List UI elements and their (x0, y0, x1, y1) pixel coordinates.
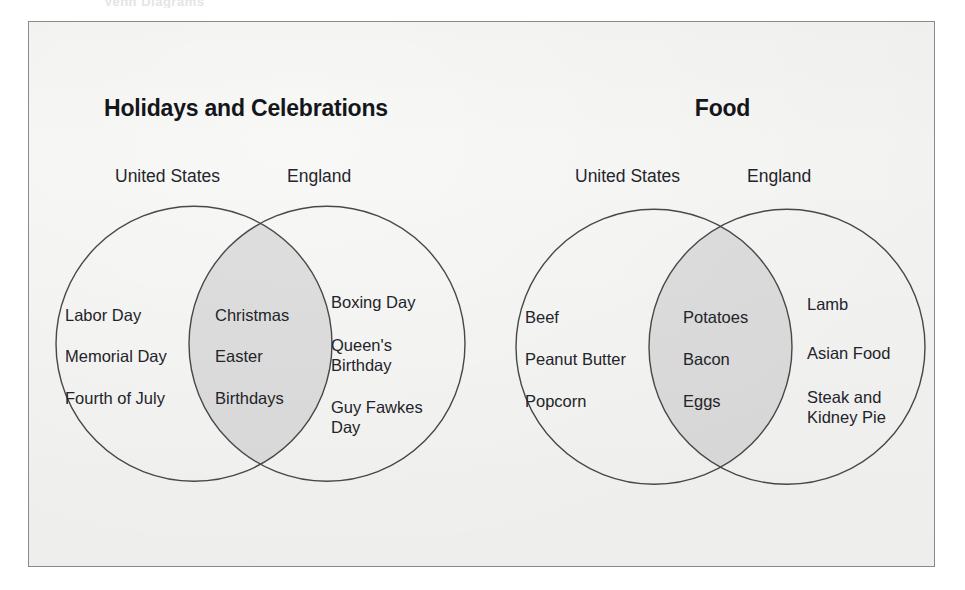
venn-item-holidays-england-3: Guy Fawkes Day (331, 397, 423, 437)
venn-item-food-us-3: Popcorn (525, 391, 586, 411)
venn-item-holidays-both-2: Easter (215, 346, 263, 366)
venn-diagram-holidays: Holidays and Celebrations United States … (29, 22, 499, 566)
venn-item-holidays-us-3: Fourth of July (65, 388, 165, 408)
venn-item-food-us-2: Peanut Butter (525, 349, 626, 369)
venn-item-food-both-1: Potatoes (683, 307, 748, 327)
venn-circles-food (469, 22, 936, 566)
venn-item-food-england-2: Asian Food (807, 343, 890, 363)
venn-item-food-england-3: Steak and Kidney Pie (807, 387, 886, 427)
venn-item-holidays-england-2: Queen's Birthday (331, 335, 392, 375)
venn-item-holidays-both-1: Christmas (215, 305, 289, 325)
venn-diagram-food: Food United States England Beef Peanut B… (469, 22, 936, 566)
venn-item-food-both-2: Bacon (683, 349, 730, 369)
venn-item-holidays-both-3: Birthdays (215, 388, 284, 408)
venn-item-food-england-1: Lamb (807, 294, 848, 314)
venn-item-food-both-3: Eggs (683, 391, 721, 411)
venn-item-holidays-england-1: Boxing Day (331, 292, 415, 312)
top-caption-text: Venn Diagrams (104, 0, 404, 8)
overlap-region-holidays (189, 206, 465, 481)
figure-panel: Holidays and Celebrations United States … (28, 21, 935, 567)
venn-item-food-us-1: Beef (525, 307, 559, 327)
venn-circles-holidays (29, 22, 499, 566)
venn-item-holidays-us-2: Memorial Day (65, 346, 167, 366)
venn-item-holidays-us-1: Labor Day (65, 305, 141, 325)
